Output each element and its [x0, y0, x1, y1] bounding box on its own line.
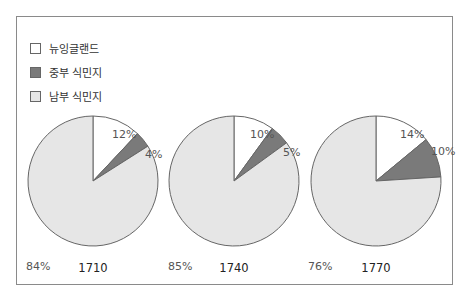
slice-label: 14% — [400, 128, 424, 141]
slice-label: 84% — [26, 260, 50, 273]
year-label: 1710 — [78, 261, 107, 275]
slice-label: 85% — [168, 260, 192, 273]
year-label: 1740 — [219, 261, 248, 275]
slice-label: 4% — [145, 148, 162, 161]
pie-1740: 10%5%85%1740 — [168, 116, 300, 275]
pie-1710: 12%4%84%1710 — [26, 116, 162, 275]
pie-1770: 14%10%76%1770 — [308, 116, 455, 275]
slice-label: 76% — [308, 260, 332, 273]
slice-label: 12% — [112, 128, 136, 141]
year-label: 1770 — [361, 261, 390, 275]
slice-label: 5% — [283, 146, 300, 159]
slice-label: 10% — [431, 145, 455, 158]
slice-label: 10% — [250, 128, 274, 141]
pie-charts: 12%4%84%171010%5%85%174014%10%76%1770 — [0, 0, 470, 298]
